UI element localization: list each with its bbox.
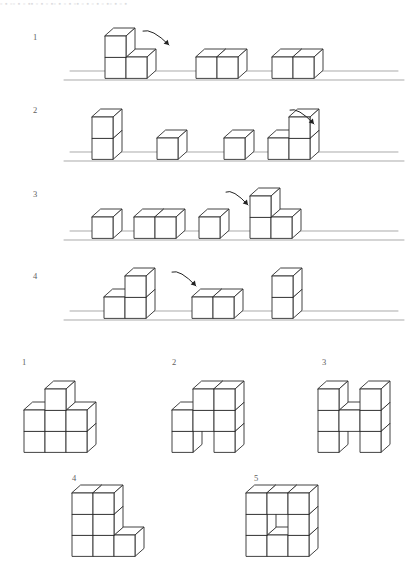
cube-illustration-canvas	[0, 0, 406, 576]
question-2-shape-4	[268, 109, 319, 159]
option-3x3-with-notch	[246, 485, 318, 556]
option-stepped-with-gap	[172, 381, 244, 452]
question-2-shape-2	[157, 130, 187, 159]
option-label-2: 2	[172, 358, 176, 367]
question-1-shape-2	[196, 49, 247, 78]
question-1-shape-1	[105, 28, 156, 78]
option-h-shape	[318, 381, 390, 452]
question-3-shape-3	[199, 209, 229, 238]
question-row-label-3: 3	[33, 190, 37, 199]
rotation-arrow	[290, 110, 314, 124]
puzzle-sheet: ▫ ▪ ▫▫ ▪ ▫ ▪▪ ▫ ▪ ▫ ▪▫ ▪ ▫ ▪ ▫▪ ▫ ▪ ▫ ▪ …	[0, 0, 406, 576]
rotation-arrow	[143, 31, 169, 45]
question-row-label-4: 4	[33, 272, 37, 281]
question-2-shape-1	[92, 109, 122, 159]
question-1-shape-3	[272, 49, 323, 78]
question-3-shape-1	[92, 209, 122, 238]
question-4-shape-1	[104, 268, 155, 318]
rotation-arrow	[172, 272, 196, 286]
question-row-label-2: 2	[33, 106, 37, 115]
option-block-3x2-plus-top	[24, 381, 96, 452]
option-l-shape-tall	[72, 485, 144, 556]
option-label-5: 5	[254, 474, 258, 483]
option-label-4: 4	[72, 474, 76, 483]
question-row-label-1: 1	[33, 33, 37, 42]
option-label-3: 3	[322, 358, 326, 367]
question-3-shape-2	[134, 209, 185, 238]
question-3-shape-4	[250, 188, 301, 238]
question-4-shape-3	[272, 268, 302, 318]
question-2-shape-3	[224, 130, 254, 159]
option-label-1: 1	[22, 358, 26, 367]
page-header-fragment: ▫ ▪ ▫▫ ▪ ▫ ▪▪ ▫ ▪ ▫ ▪▫ ▪ ▫ ▪ ▫▪ ▫ ▪ ▫ ▪ …	[0, 0, 406, 7]
question-4-shape-2	[192, 289, 243, 318]
rotation-arrow	[226, 191, 248, 205]
